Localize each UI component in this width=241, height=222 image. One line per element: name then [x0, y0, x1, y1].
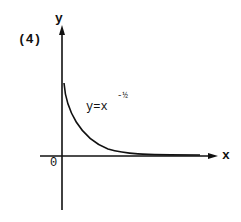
equation-exponent: -½ [117, 91, 128, 101]
y-axis-label: y [55, 11, 63, 26]
equation-label: y=x [86, 100, 108, 114]
function-graph: (4) y x 0 y=x -½ [0, 0, 241, 222]
y-axis-arrow-icon [59, 25, 65, 35]
figure-label: (4) [18, 32, 41, 47]
x-axis-arrow-icon [208, 153, 218, 159]
x-axis-label: x [222, 148, 230, 163]
origin-label: 0 [50, 156, 57, 170]
function-curve [64, 83, 200, 155]
